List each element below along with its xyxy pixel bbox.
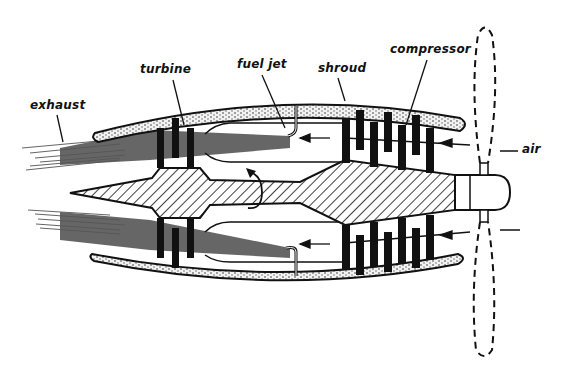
prop-root-top <box>480 163 488 175</box>
label-turbine: turbine <box>140 62 191 76</box>
label-fuel-jet: fuel jet <box>237 57 287 71</box>
shroud-bottom <box>90 254 463 280</box>
propeller-blade-bottom <box>474 222 495 356</box>
propeller-blade-top <box>474 28 495 164</box>
label-air: air <box>522 142 541 156</box>
turboprop-diagram: exhaust turbine fuel jet shroud compress… <box>0 0 565 382</box>
label-shroud: shroud <box>318 61 366 75</box>
propeller-hub <box>455 175 510 210</box>
prop-root-bottom <box>480 210 488 222</box>
label-exhaust: exhaust <box>30 98 85 112</box>
label-compressor: compressor <box>390 42 471 56</box>
